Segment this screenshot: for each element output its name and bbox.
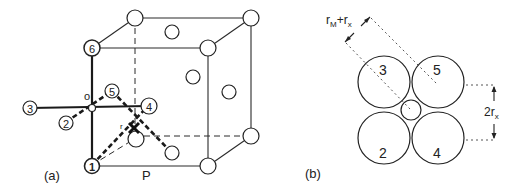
height-label: 2rx bbox=[484, 105, 499, 121]
edge-label-p: P bbox=[142, 168, 151, 183]
site-2: 2 bbox=[59, 116, 73, 130]
panel-a-label: (a) bbox=[44, 168, 60, 183]
panel-b-label: (b) bbox=[305, 166, 321, 181]
figure-canvas: r o 6 3 2 bbox=[0, 0, 523, 193]
anion-3-label: 3 bbox=[379, 62, 387, 78]
atom-back-top-left bbox=[127, 10, 143, 26]
atom-top-face-center bbox=[165, 25, 179, 39]
site-1-label: 1 bbox=[89, 161, 95, 173]
anion-2-label: 2 bbox=[379, 145, 387, 161]
atom-front-bottom-right bbox=[200, 158, 216, 174]
cation-center bbox=[401, 100, 421, 120]
site-5: 5 bbox=[105, 84, 119, 98]
center-atom bbox=[89, 105, 96, 112]
site-2-label: 2 bbox=[63, 118, 69, 130]
site-3: 3 bbox=[23, 101, 37, 115]
site-4: 4 bbox=[141, 98, 157, 114]
radius-label: r bbox=[120, 122, 123, 131]
site-1: 1 bbox=[85, 159, 100, 174]
site-5-label: 5 bbox=[109, 86, 115, 98]
site-6-label: 6 bbox=[89, 43, 95, 55]
anion-5-label: 5 bbox=[433, 62, 441, 78]
anion-4-label: 4 bbox=[433, 145, 441, 161]
site-3-label: 3 bbox=[27, 103, 33, 115]
panel-a: r o 6 3 2 bbox=[23, 10, 259, 183]
site-6: 6 bbox=[84, 40, 100, 56]
atom-front-top-right bbox=[200, 40, 216, 56]
atom-bottom-face-center bbox=[165, 146, 179, 160]
atom-back-top-right bbox=[243, 10, 259, 26]
atom-front-face-center bbox=[186, 70, 200, 84]
panel-b: 3 5 2 4 rM+rx 2rx (b) bbox=[305, 13, 499, 181]
distance-label: rM+rx bbox=[326, 13, 352, 29]
atom-right-face-center bbox=[222, 85, 236, 99]
site-4-label: 4 bbox=[146, 101, 152, 113]
atom-back-bottom-right bbox=[243, 128, 259, 144]
origin-label: o bbox=[84, 90, 90, 102]
